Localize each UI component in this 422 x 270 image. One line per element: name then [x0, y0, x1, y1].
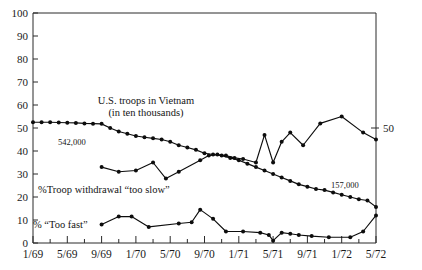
series-data-point [100, 165, 104, 169]
series-data-point [117, 215, 121, 219]
x-axis-tick-label: 5/71 [263, 248, 284, 260]
series-data-point [164, 177, 168, 181]
series-data-point [82, 121, 86, 125]
x-axis-tick-label: 1/71 [229, 248, 250, 260]
y-axis-tick-label: 40 [17, 145, 29, 157]
series-data-point [288, 131, 292, 135]
right-axis-value: 50 [383, 122, 395, 134]
series-data-point [57, 120, 61, 124]
chart-canvas: 0102030405060708090100 1/695/699/691/705… [0, 0, 422, 270]
too-fast-label: % “Too fast” [33, 219, 88, 230]
series-data-point [215, 152, 219, 156]
series-data-point [348, 195, 352, 199]
series-data-point [203, 151, 207, 155]
series-data-point [198, 208, 202, 212]
series-data-point [280, 140, 284, 144]
series-data-point [323, 188, 327, 192]
series-data-point [305, 185, 309, 189]
series-data-point [177, 143, 181, 147]
series-data-point [361, 230, 365, 234]
series-data-point [361, 131, 365, 135]
series-data-point [340, 115, 344, 119]
series-data-point [288, 232, 292, 236]
y-axis-tick-label: 60 [17, 99, 29, 111]
y-axis-tick-label: 20 [17, 191, 29, 203]
series-data-point [151, 161, 155, 165]
series-data-point [168, 140, 172, 144]
x-axis-tick-label: 5/70 [160, 248, 181, 260]
chart-series [100, 115, 378, 181]
x-axis-tick-labels: 1/695/699/691/705/709/701/715/719/711/72… [23, 248, 387, 260]
plot-border [33, 13, 376, 243]
too-slow-label: %Troop withdrawal “too slow” [38, 184, 170, 195]
y-axis-tick-label: 80 [17, 53, 29, 65]
series-data-point [224, 154, 228, 158]
series-data-point [297, 182, 301, 186]
series-data-point [117, 129, 121, 133]
series-data-point [100, 122, 104, 126]
y-axis-tick-label: 100 [12, 7, 29, 19]
series-data-point [31, 120, 35, 124]
chart-series [31, 120, 378, 209]
series-data-point [365, 198, 369, 202]
x-axis-tick-label: 9/71 [297, 248, 318, 260]
series-data-point [241, 157, 245, 161]
series-data-point [310, 234, 314, 238]
chart-axes [33, 13, 379, 243]
series-data-point [151, 136, 155, 140]
series-data-point [301, 143, 305, 147]
series-data-point [245, 162, 249, 166]
series-data-point [331, 190, 335, 194]
x-axis-tick-label: 1/70 [126, 248, 147, 260]
series-data-point [194, 148, 198, 152]
x-axis-tick-label: 5/72 [366, 248, 387, 260]
series-data-point [263, 133, 267, 137]
series-data-point [74, 121, 78, 125]
series-data-point [134, 169, 138, 173]
series-data-point [374, 205, 378, 209]
series-data-point [65, 121, 69, 125]
series-data-point [263, 169, 267, 173]
series-data-point [280, 231, 284, 235]
series-data-point [147, 225, 151, 229]
series-data-point [207, 154, 211, 158]
troops-start-value: 542,000 [58, 137, 86, 147]
series-data-point [357, 197, 361, 201]
x-axis-tick-label: 1/69 [23, 248, 44, 260]
series-data-point [130, 215, 134, 219]
series-data-point [134, 134, 138, 138]
series-data-point [271, 172, 275, 176]
series-data-point [254, 165, 258, 169]
series-data-point [100, 223, 104, 227]
series-data-point [177, 170, 181, 174]
troops-sublabel: (in ten thousands) [108, 107, 184, 119]
series-data-point [91, 122, 95, 126]
series-data-point [271, 239, 275, 243]
series-data-point [125, 132, 129, 136]
series-data-point [142, 135, 146, 139]
series-data-point [233, 156, 237, 160]
series-data-point [40, 120, 44, 124]
series-data-point [258, 231, 262, 235]
y-axis-tick-labels: 0102030405060708090100 [12, 7, 29, 249]
series-data-point [348, 235, 352, 239]
series-data-point [280, 175, 284, 179]
series-data-point [108, 126, 112, 130]
series-data-point [190, 220, 194, 224]
series-data-point [288, 179, 292, 183]
series-data-point [241, 230, 245, 234]
series-line [102, 117, 376, 179]
series-data-point [198, 158, 202, 162]
series-data-point [117, 170, 121, 174]
series-data-point [374, 213, 378, 217]
series-data-point [297, 233, 301, 237]
x-axis-tick-label: 1/72 [331, 248, 352, 260]
troops-label: U.S. troops in Vietnam [98, 95, 194, 106]
series-data-point [267, 233, 271, 237]
series-data-point [185, 146, 189, 150]
series-data-point [224, 230, 228, 234]
x-axis-tick-label: 9/69 [91, 248, 112, 260]
series-data-point [160, 138, 164, 142]
series-data-point [314, 187, 318, 191]
x-axis-tick-label: 9/70 [194, 248, 215, 260]
